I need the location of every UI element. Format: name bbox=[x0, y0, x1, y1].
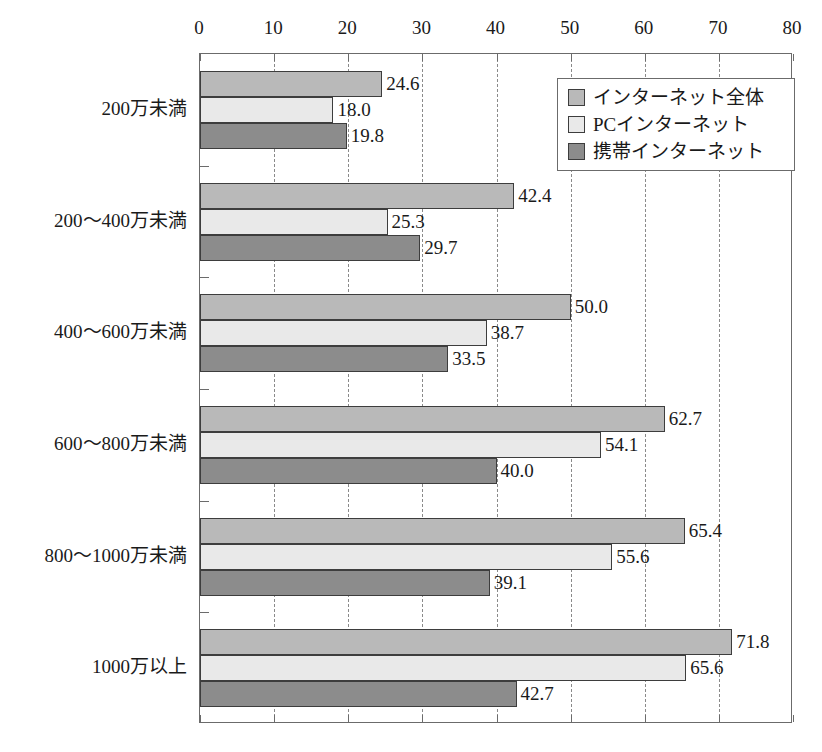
axis-tick bbox=[571, 715, 572, 722]
bar-value-label: 39.1 bbox=[494, 573, 527, 593]
axis-tick bbox=[274, 715, 275, 722]
bar-value-label: 38.7 bbox=[491, 323, 524, 343]
axis-tick bbox=[719, 54, 720, 61]
bar bbox=[200, 629, 732, 655]
x-axis-tick-label: 30 bbox=[412, 16, 431, 40]
category-label: 600～800万未満 bbox=[0, 433, 187, 455]
bar-value-label: 25.3 bbox=[392, 212, 425, 232]
axis-tick bbox=[200, 715, 201, 722]
bar-value-label: 55.6 bbox=[616, 547, 649, 567]
axis-tick bbox=[422, 715, 423, 722]
category-label: 200～400万未満 bbox=[0, 210, 187, 232]
bar bbox=[200, 346, 448, 372]
legend-label: 携帯インターネット bbox=[593, 141, 764, 163]
group-separator-tick bbox=[200, 166, 209, 167]
bar bbox=[200, 294, 571, 320]
bar-value-label: 71.8 bbox=[736, 632, 769, 652]
bar-value-label: 18.0 bbox=[337, 100, 370, 120]
group-separator-tick bbox=[200, 612, 209, 613]
bar-value-label: 29.7 bbox=[424, 238, 457, 258]
bar-chart: 01020304050607080 24.618.019.842.425.329… bbox=[0, 0, 822, 752]
bar bbox=[200, 570, 490, 596]
gridline bbox=[274, 54, 275, 722]
axis-tick bbox=[422, 54, 423, 61]
group-separator-tick bbox=[200, 501, 209, 502]
legend-label: PCインターネット bbox=[593, 114, 749, 136]
bar-value-label: 42.7 bbox=[521, 684, 554, 704]
legend-item: 携帯インターネット bbox=[568, 138, 785, 165]
x-axis-tick-label: 10 bbox=[264, 16, 283, 40]
bar bbox=[200, 183, 514, 209]
axis-tick bbox=[793, 715, 794, 722]
bar bbox=[200, 655, 686, 681]
bar-value-label: 40.0 bbox=[501, 461, 534, 481]
legend-swatch-icon bbox=[568, 116, 585, 133]
group-separator-tick bbox=[200, 389, 209, 390]
bar-value-label: 65.4 bbox=[689, 521, 722, 541]
category-label: 1000万以上 bbox=[0, 656, 187, 678]
x-axis-tick-label: 80 bbox=[783, 16, 802, 40]
bar bbox=[200, 209, 388, 235]
bar bbox=[200, 681, 517, 707]
legend-swatch-icon bbox=[568, 89, 585, 106]
category-label: 800～1000万未満 bbox=[0, 545, 187, 567]
legend-item: PCインターネット bbox=[568, 111, 785, 138]
bar bbox=[200, 123, 347, 149]
bar-value-label: 19.8 bbox=[351, 126, 384, 146]
gridline bbox=[422, 54, 423, 722]
bar bbox=[200, 544, 612, 570]
x-axis-tick-label: 0 bbox=[194, 16, 204, 40]
axis-tick bbox=[274, 54, 275, 61]
x-axis-tick-label: 20 bbox=[338, 16, 357, 40]
bar-value-label: 54.1 bbox=[605, 435, 638, 455]
group-separator-tick bbox=[200, 277, 209, 278]
bar bbox=[200, 320, 487, 346]
legend-label: インターネット全体 bbox=[593, 87, 764, 109]
x-axis-tick-label: 40 bbox=[486, 16, 505, 40]
bar-value-label: 42.4 bbox=[518, 186, 551, 206]
axis-tick bbox=[497, 54, 498, 61]
bar-value-label: 65.6 bbox=[690, 658, 723, 678]
bar bbox=[200, 458, 497, 484]
category-label: 200万未満 bbox=[0, 98, 187, 120]
bar-value-label: 24.6 bbox=[386, 74, 419, 94]
axis-tick bbox=[645, 715, 646, 722]
x-axis-tick-label: 70 bbox=[708, 16, 727, 40]
axis-tick bbox=[348, 54, 349, 61]
axis-tick bbox=[793, 54, 794, 61]
x-axis-tick-labels: 01020304050607080 bbox=[0, 16, 822, 42]
bar bbox=[200, 97, 333, 123]
x-axis-tick-label: 60 bbox=[634, 16, 653, 40]
bar bbox=[200, 518, 685, 544]
axis-tick bbox=[497, 715, 498, 722]
bar bbox=[200, 406, 665, 432]
x-axis-tick-label: 50 bbox=[560, 16, 579, 40]
axis-tick bbox=[571, 54, 572, 61]
bar-value-label: 33.5 bbox=[452, 349, 485, 369]
gridline bbox=[497, 54, 498, 722]
legend-item: インターネット全体 bbox=[568, 84, 785, 111]
bar bbox=[200, 71, 382, 97]
axis-tick bbox=[348, 715, 349, 722]
bar-value-label: 50.0 bbox=[575, 297, 608, 317]
chart-legend: インターネット全体PCインターネット携帯インターネット bbox=[557, 78, 795, 171]
bar bbox=[200, 235, 420, 261]
bar bbox=[200, 432, 601, 458]
axis-tick bbox=[719, 715, 720, 722]
bar-value-label: 62.7 bbox=[669, 409, 702, 429]
category-label: 400～600万未満 bbox=[0, 321, 187, 343]
axis-tick bbox=[200, 54, 201, 61]
axis-tick bbox=[645, 54, 646, 61]
gridline bbox=[348, 54, 349, 722]
legend-swatch-icon bbox=[568, 143, 585, 160]
